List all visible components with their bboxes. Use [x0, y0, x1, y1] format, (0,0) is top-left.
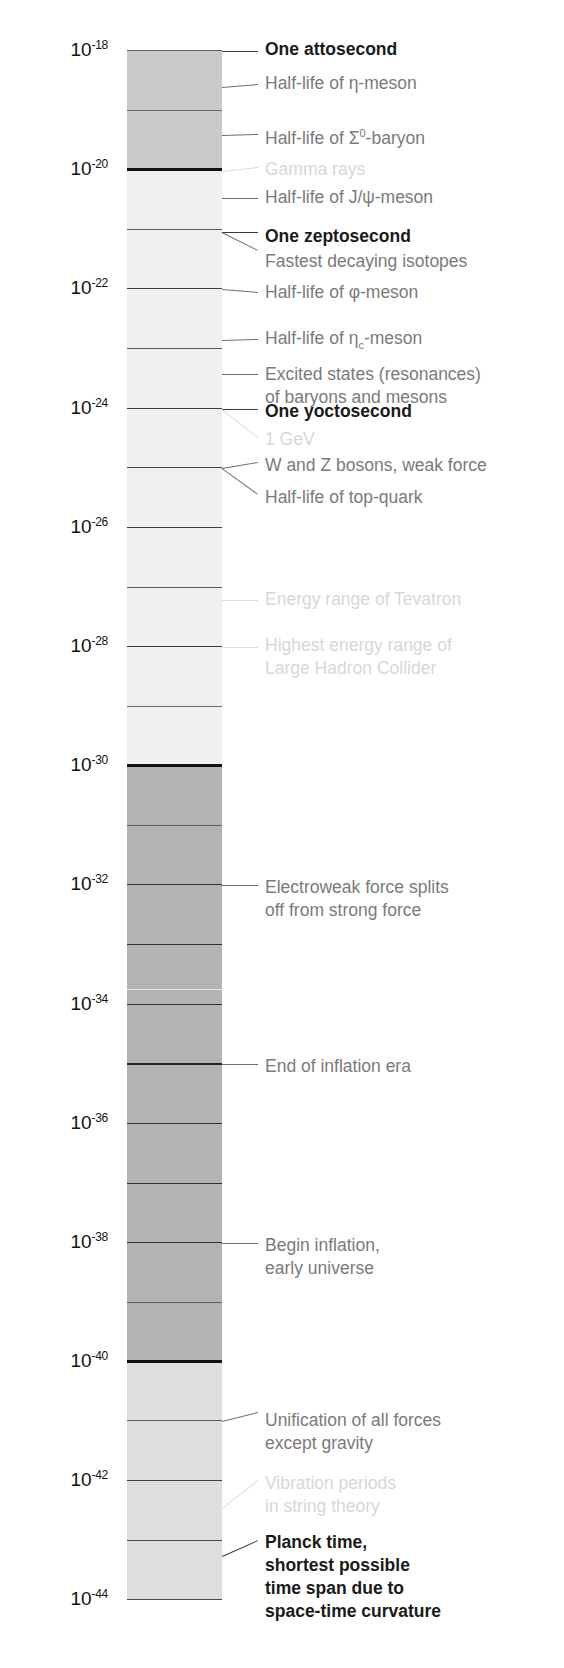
annotation-half-life-top-quark: Half-life of top-quark: [265, 486, 423, 509]
axis-label-exponent: -44: [92, 1587, 108, 1601]
annotation-vibration-periods-string-theory: Vibration periodsin string theory: [265, 1472, 396, 1518]
gridline-0: [127, 50, 222, 51]
gridline-15: [127, 944, 222, 945]
axis-label-base: 10: [70, 635, 91, 656]
annotation-line: Fastest decaying isotopes: [265, 250, 467, 273]
leader-line-half-life-eta-meson: [222, 84, 258, 88]
axis-label-exponent: -42: [92, 1468, 108, 1482]
annotation-line: Vibration periods: [265, 1472, 396, 1495]
annotation-half-life-sigma0-baryon: Half-life of Σ0-baryon: [265, 122, 425, 150]
gridline-21: [127, 1242, 222, 1243]
gridline-16: [127, 989, 222, 990]
axis-label-exponent: -24: [92, 396, 108, 410]
axis-label-base: 10: [70, 1112, 91, 1133]
annotation-line: time span due to: [265, 1577, 441, 1600]
axis-label--34: 10-34: [0, 992, 108, 1015]
annotation-line: Begin inflation,: [265, 1234, 380, 1257]
axis-label-exponent: -20: [92, 157, 108, 171]
annotation-line: Energy range of Tevatron: [265, 588, 461, 611]
annotation-line: W and Z bosons, weak force: [265, 454, 487, 477]
leader-line-one-yoctosecond: [222, 409, 258, 410]
gridline-8: [127, 527, 222, 528]
axis-label-base: 10: [70, 1469, 91, 1490]
axis-label-exponent: -40: [92, 1349, 108, 1363]
annotation-line: End of inflation era: [265, 1055, 411, 1078]
leader-line-unification-of-forces: [222, 1412, 258, 1422]
axis-label-base: 10: [70, 873, 91, 894]
annotation-one-yoctosecond: One yoctosecond: [265, 400, 412, 423]
annotation-half-life-jpsi-meson: Half-life of J/ψ-meson: [265, 186, 433, 209]
annotation-line: One zeptosecond: [265, 225, 411, 248]
annotation-line: except gravity: [265, 1432, 441, 1455]
leader-line-highest-energy-lhc: [222, 647, 258, 648]
annotation-line: Electroweak force splits: [265, 876, 449, 899]
annotation-fastest-decaying-isotopes: Fastest decaying isotopes: [265, 250, 467, 273]
gridline-27: [127, 1599, 222, 1600]
seg-1e20-1e30: [127, 171, 222, 766]
annotation-begin-inflation: Begin inflation,early universe: [265, 1234, 380, 1280]
gridline-10: [127, 646, 222, 647]
annotation-half-life-etac-meson: Half-life of ηc-meson: [265, 327, 422, 357]
gridline-14: [127, 884, 222, 885]
axis-label--30: 10-30: [0, 753, 108, 776]
gridline-3: [127, 229, 222, 230]
axis-label-exponent: -38: [92, 1230, 108, 1244]
gridline-2: [127, 168, 222, 171]
annotation-line: 1 GeV: [265, 428, 315, 451]
axis-label-exponent: -36: [92, 1111, 108, 1125]
gridline-26: [127, 1540, 222, 1541]
timescale-figure: 10-1810-2010-2210-2410-2610-2810-3010-32…: [0, 0, 564, 1668]
leader-line-energy-range-tevatron: [222, 600, 258, 601]
leader-line-half-life-top-quark: [221, 468, 258, 495]
axis-label-base: 10: [70, 516, 91, 537]
annotation-half-life-eta-meson: Half-life of η-meson: [265, 72, 417, 95]
gridline-18: [127, 1063, 222, 1065]
leader-line-gamma-rays: [222, 167, 258, 172]
annotation-line: in string theory: [265, 1495, 396, 1518]
leader-line-begin-inflation: [222, 1243, 258, 1244]
axis-label-base: 10: [70, 754, 91, 775]
gridline-13: [127, 825, 222, 826]
annotation-planck-time: Planck time,shortest possibletime span d…: [265, 1531, 441, 1623]
gridline-11: [127, 706, 222, 707]
axis-label-exponent: -32: [92, 872, 108, 886]
gridline-6: [127, 408, 222, 409]
gridline-23: [127, 1360, 222, 1363]
superscript-0: 0: [359, 127, 365, 139]
leader-line-half-life-etac-meson: [222, 339, 258, 341]
leader-line-end-of-inflation-era: [222, 1064, 258, 1065]
subscript-c: c: [358, 339, 364, 351]
annotation-one-attosecond: One attosecond: [265, 38, 397, 61]
annotation-one-zeptosecond: One zeptosecond: [265, 225, 411, 248]
gridline-22: [127, 1302, 222, 1303]
gridline-20: [127, 1183, 222, 1184]
axis-label--40: 10-40: [0, 1349, 108, 1372]
annotation-energy-range-tevatron: Energy range of Tevatron: [265, 588, 461, 611]
gridline-5: [127, 348, 222, 349]
axis-label-exponent: -18: [92, 38, 108, 52]
annotation-line: Half-life of top-quark: [265, 486, 423, 509]
annotation-line: shortest possible: [265, 1554, 441, 1577]
axis-label--38: 10-38: [0, 1230, 108, 1253]
axis-label--24: 10-24: [0, 396, 108, 419]
annotation-line: Half-life of Σ0-baryon: [265, 122, 425, 150]
annotation-line: Gamma rays: [265, 158, 365, 181]
annotation-line: Half-life of ηc-meson: [265, 327, 422, 357]
annotation-electroweak-force-splits: Electroweak force splitsoff from strong …: [265, 876, 449, 922]
leader-line-fastest-decaying-isotopes: [222, 232, 258, 251]
annotation-one-gev: 1 GeV: [265, 428, 315, 451]
axis-label-base: 10: [70, 39, 91, 60]
annotation-line: Half-life of J/ψ-meson: [265, 186, 433, 209]
axis-label-exponent: -22: [92, 276, 108, 290]
leader-line-vibration-periods-string-theory: [222, 1480, 259, 1509]
axis-label--32: 10-32: [0, 872, 108, 895]
axis-label-base: 10: [70, 397, 91, 418]
annotation-half-life-phi-meson: Half-life of φ-meson: [265, 281, 418, 304]
annotation-highest-energy-lhc: Highest energy range ofLarge Hadron Coll…: [265, 634, 452, 680]
axis-label-exponent: -30: [92, 753, 108, 767]
gridline-1: [127, 110, 222, 111]
axis-label--22: 10-22: [0, 276, 108, 299]
axis-label-base: 10: [70, 277, 91, 298]
annotation-end-of-inflation-era: End of inflation era: [265, 1055, 411, 1078]
axis-label-exponent: -34: [92, 992, 108, 1006]
